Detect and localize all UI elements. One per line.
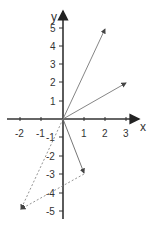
vector-diagram: x y -2 -1 1 2 3 5 4 3 2 1 -1 -2 -3 -4 -5 (0, 0, 155, 225)
y-axis-label: y (51, 10, 57, 24)
x-tick-label: 3 (123, 128, 129, 139)
y-tick-label: -5 (46, 206, 55, 217)
vector-3-2 (63, 83, 126, 119)
vector-2-5 (63, 29, 105, 119)
x-tick-label: -1 (36, 128, 45, 139)
y-tick-label: 5 (50, 23, 56, 34)
y-tick-label: 3 (50, 59, 56, 70)
y-tick-label: 2 (50, 77, 56, 88)
y-tick-label: -3 (46, 169, 55, 180)
x-tick-label: 1 (81, 128, 87, 139)
x-tick-label: -2 (15, 128, 24, 139)
x-axis-label: x (140, 120, 146, 134)
y-tick-label: 1 (50, 96, 56, 107)
y-tick-label: 4 (50, 41, 56, 52)
y-tick-label: -4 (46, 188, 55, 199)
x-tick-label: 2 (102, 128, 108, 139)
